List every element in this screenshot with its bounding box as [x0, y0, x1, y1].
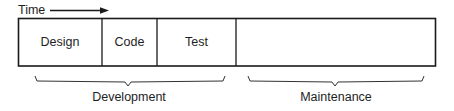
- development-brace: [35, 76, 225, 86]
- software-lifecycle-diagram: Time Design Code Test Development Mainte…: [0, 0, 454, 111]
- development-label: Development: [92, 90, 166, 104]
- phase-test-label: Test: [185, 35, 208, 49]
- phase-code: Code: [102, 18, 157, 66]
- phase-design-label: Design: [41, 35, 80, 49]
- phase-code-label: Code: [115, 35, 145, 49]
- time-arrow-icon: [50, 7, 109, 14]
- phase-maintenance-block: [236, 18, 436, 66]
- phase-design: Design: [18, 18, 102, 66]
- maintenance-brace: [248, 76, 424, 86]
- maintenance-label: Maintenance: [300, 90, 372, 104]
- time-label: Time: [18, 3, 45, 17]
- phase-test: Test: [157, 18, 236, 66]
